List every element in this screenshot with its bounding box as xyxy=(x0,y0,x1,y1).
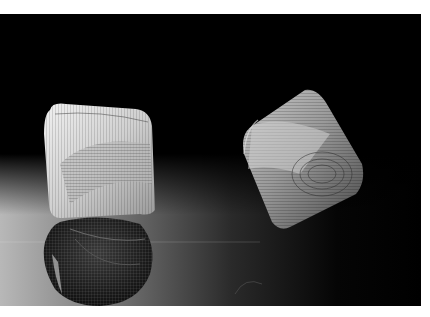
left-mesh-sculpture xyxy=(44,104,155,218)
photograph: Photograph of two wire-mesh cube sculptu… xyxy=(0,14,421,306)
photo-canvas xyxy=(0,14,421,306)
left-sculpture-reflection xyxy=(44,217,153,306)
